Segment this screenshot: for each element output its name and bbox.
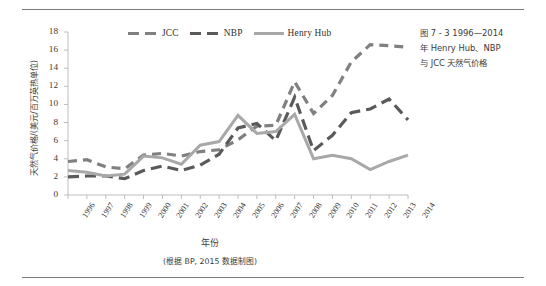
legend-item-jcc[interactable]: JCC: [128, 28, 179, 38]
x-axis-title: 年份: [0, 236, 420, 249]
legend-item-henry-hub[interactable]: Henry Hub: [254, 28, 332, 38]
y-axis-tick-label: 16: [42, 44, 58, 54]
legend-swatch-icon: [190, 32, 220, 35]
chart-legend: JCCNBPHenry Hub: [128, 28, 331, 38]
figure-caption-line-2: 年 Henry Hub、NBP: [420, 41, 544, 56]
y-axis-tick-label: 10: [42, 98, 58, 108]
y-axis-tick-label: 6: [42, 135, 58, 145]
y-axis-tick-label: 18: [42, 26, 58, 36]
y-axis-tick-label: 0: [42, 189, 58, 199]
chart-series-group: [68, 45, 408, 179]
y-axis-tick-label: 8: [42, 117, 58, 127]
y-axis-tick-label: 14: [42, 62, 58, 72]
legend-item-nbp[interactable]: NBP: [190, 28, 243, 38]
legend-label: NBP: [224, 28, 243, 38]
legend-label: JCC: [162, 28, 179, 38]
x-axis-tick-marks: [68, 195, 408, 199]
legend-swatch-icon: [128, 32, 158, 35]
y-axis-tick-label: 4: [42, 153, 58, 163]
figure-caption: 图 7 - 3 1996—2014年 Henry Hub、NBP与 JCC 天然…: [420, 26, 544, 71]
legend-label: Henry Hub: [288, 28, 332, 38]
legend-swatch-icon: [254, 32, 284, 35]
figure-page: 天然气价格/(美元/百万英热单位) 年份 024681012141618 199…: [0, 0, 546, 286]
figure-caption-line-3: 与 JCC 天然气价格: [420, 56, 544, 71]
series-line-jcc: [68, 45, 408, 169]
figure-source-note: (根据 BP, 2015 数据制图): [0, 255, 420, 266]
y-axis-title: 天然气价格/(美元/百万英热单位): [27, 38, 39, 198]
y-axis-tick-marks: [64, 32, 68, 195]
figure-caption-line-1: 图 7 - 3 1996—2014: [420, 26, 544, 41]
y-axis-tick-label: 12: [42, 80, 58, 90]
y-axis-tick-label: 2: [42, 171, 58, 181]
